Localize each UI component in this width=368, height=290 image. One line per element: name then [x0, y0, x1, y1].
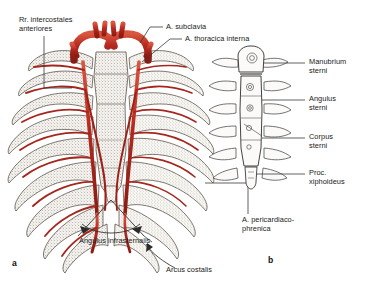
label-proc-xiphoideus: Proc. xiphoideus [309, 169, 345, 186]
sternum-panel-a [94, 52, 128, 202]
label-angulus-sterni: Angulus sterni [309, 95, 336, 112]
anatomy-figure: Rr. intercostales anteriores A. subclavi… [0, 0, 368, 290]
panel-label-b: b [268, 255, 273, 265]
label-arcus-costalis: Arcus costalis [166, 266, 212, 275]
corpus-sterni-shape [240, 76, 262, 166]
label-rr-intercostales-anteriores: Rr. intercostales anteriores [19, 16, 73, 33]
label-angulus-infrasternalis: Angulus infrasternalis [79, 237, 150, 246]
label-corpus-sterni: Corpus sterni [309, 133, 333, 150]
label-a-pericardiacophrenica: A. pericardiaco- phrenica [242, 216, 294, 233]
leader-a-pericardiacophrenica [205, 183, 248, 214]
label-a-subclavia: A. subclavia [166, 23, 206, 32]
panel-label-a: a [12, 258, 17, 268]
panel-b-illustration [209, 46, 291, 189]
label-a-thoracica-interna: A. thoracica interna [185, 35, 249, 44]
manubrium-sterni-shape [238, 46, 264, 72]
label-manubrium-sterni: Manubrium sterni [309, 58, 346, 75]
